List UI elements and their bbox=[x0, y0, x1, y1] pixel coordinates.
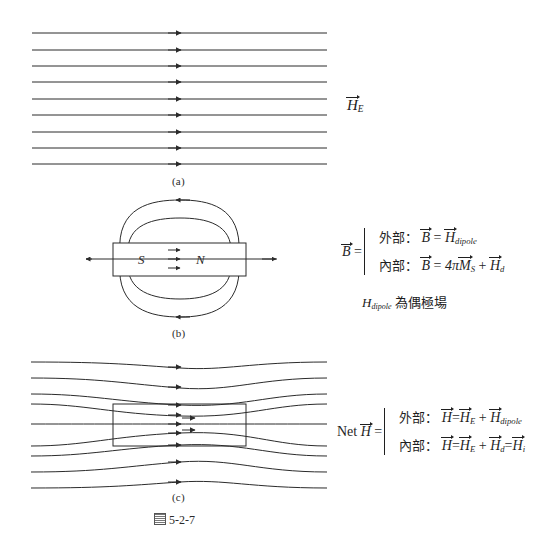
panel-label-c: (c) bbox=[172, 491, 185, 503]
panel-c-row1-term1: H bbox=[460, 410, 470, 425]
panel-c-row2-eq: = bbox=[452, 438, 460, 453]
panel-b-row2-eq: = bbox=[434, 258, 442, 273]
panel-b-note-symbol: H bbox=[362, 295, 371, 310]
panel-b-eq-row-external: 外部： B = Hdipole bbox=[379, 228, 504, 247]
panel-c-eq-lhs: H bbox=[361, 424, 371, 439]
panel-c-row1-lhs: H bbox=[442, 410, 452, 425]
panel-b-row2-term1: M bbox=[459, 258, 471, 273]
panel-c-eq-row-external: 外部： H=HE + Hdipole bbox=[399, 408, 525, 427]
panel-c-row2-lhs: H bbox=[442, 438, 452, 453]
panel-c-eq-row-internal: 內部： H=HE + Hd=Hi bbox=[399, 436, 525, 455]
panel-b-row2-term1-sub: S bbox=[471, 264, 475, 274]
panel-b-brace bbox=[364, 228, 375, 275]
figure-caption-text: 5-2-7 bbox=[169, 513, 195, 527]
panel-a-field-label: HE bbox=[347, 96, 364, 114]
panel-a-arrowheads bbox=[168, 33, 181, 164]
panel-c-row2-term1-sub: E bbox=[470, 444, 475, 454]
panel-c-eq-lead: Net bbox=[337, 424, 357, 439]
panel-b-row2-term2: H bbox=[490, 258, 500, 273]
panel-b-row2-lhs: B bbox=[421, 258, 430, 273]
panel-a-h-symbol: H bbox=[347, 97, 358, 113]
panel-b-row2-term2-sub: d bbox=[500, 264, 504, 274]
panel-c-equation-block: Net H = 外部： H=HE + Hdipole 內部： H=HE + Hd… bbox=[337, 408, 525, 455]
panel-c-row2-term2: H bbox=[490, 438, 500, 453]
panel-b-row1-eq: = bbox=[434, 230, 442, 245]
panel-b-note-subscript: dipole bbox=[371, 302, 391, 311]
panel-c-field-lines bbox=[31, 362, 327, 488]
panel-c-row1-colon: ： bbox=[425, 410, 438, 425]
panel-label-b: (b) bbox=[172, 327, 185, 339]
panel-b-row2-plus: + bbox=[478, 258, 486, 273]
figure-caption: 5-2-7 bbox=[154, 512, 195, 528]
panel-c-body-rect bbox=[113, 404, 246, 446]
panel-b-row1-rhs: H bbox=[445, 230, 455, 245]
panel-b-eq-lhs: B bbox=[342, 244, 351, 259]
panel-c-row2-term1: H bbox=[460, 438, 470, 453]
panel-b-row2-coefficient: 4π bbox=[445, 258, 459, 273]
panel-c-row1-plus: + bbox=[479, 410, 487, 425]
panel-b-row1-region: 外部 bbox=[379, 230, 405, 245]
panel-c-brace bbox=[384, 408, 395, 455]
panel-c-row1-region: 外部 bbox=[399, 410, 425, 425]
panel-c-row2-plus: + bbox=[479, 438, 487, 453]
panel-b-eq-row-internal: 內部： B = 4πMS + Hd bbox=[379, 256, 504, 275]
panel-c-row2-colon: ： bbox=[425, 438, 438, 453]
panel-c-row2-region: 內部 bbox=[399, 438, 425, 453]
panel-b-pole-south: S bbox=[138, 252, 145, 268]
panel-a-h-subscript: E bbox=[358, 104, 364, 114]
panel-c-row1-eq: = bbox=[452, 410, 460, 425]
panel-c-row1-term2: H bbox=[490, 410, 500, 425]
figure-page: HE S N (a) (b) (c) B = 外部： B = Hdipole 內… bbox=[0, 0, 556, 541]
panel-b-row2-region: 內部 bbox=[379, 258, 405, 273]
panel-b-equation-block: B = 外部： B = Hdipole 內部： B = 4πMS + Hd bbox=[342, 228, 504, 275]
panel-b-row2-colon: ： bbox=[405, 258, 418, 273]
panel-label-a: (a) bbox=[172, 175, 185, 187]
panel-c-row2-term3: H bbox=[513, 438, 523, 453]
panel-b-note-text: 為偶極場 bbox=[395, 295, 447, 310]
panel-c-row1-term1-sub: E bbox=[470, 416, 475, 426]
panel-b-dipole-note: Hdipole 為偶極場 bbox=[362, 292, 447, 311]
book-figure-icon bbox=[154, 513, 166, 525]
panel-b-row1-rhs-sub: dipole bbox=[455, 236, 477, 246]
panel-b-row1-lhs: B bbox=[421, 230, 430, 245]
panel-c-row2-eq2: = bbox=[505, 438, 513, 453]
panel-c-row1-term2-sub: dipole bbox=[500, 416, 522, 426]
panel-b-pole-north: N bbox=[196, 252, 205, 268]
panel-b-row1-colon: ： bbox=[405, 230, 418, 245]
